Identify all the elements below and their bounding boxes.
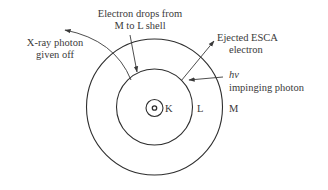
ejected-label-line1: Ejected ESCA: [217, 32, 278, 43]
electron-drop-arrow: [130, 35, 137, 72]
xray-label-line2: given off: [36, 49, 75, 60]
l-shell-label: L: [197, 103, 203, 114]
k-shell: [146, 100, 163, 117]
xray-label-line1: X-ray photon: [27, 37, 84, 48]
atomic-shell-diagram: K L M Electron drops from M to L shell X…: [0, 0, 328, 190]
impinging-photon-label: impinging photon: [229, 82, 305, 93]
nucleus: [152, 106, 156, 110]
ejected-label-line2: electron: [229, 44, 264, 55]
electron-drops-label-line2: M to L shell: [114, 20, 165, 31]
k-shell-label: K: [165, 103, 173, 114]
m-shell-label: M: [229, 103, 239, 114]
impinging-photon-arrow: [189, 77, 223, 80]
hv-label: hν: [229, 69, 239, 80]
electron-drops-label-line1: Electron drops from: [98, 8, 183, 19]
